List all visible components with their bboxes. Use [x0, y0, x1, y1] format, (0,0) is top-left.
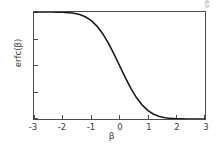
erfc-curve	[34, 12, 205, 119]
x-axis-title: β	[0, 131, 223, 141]
figure-id-label: 6969	[203, 0, 210, 8]
plot-area	[33, 11, 206, 120]
chart-figure: 2.0 1.5 1.0 0.5 0 -3 -2 -1 0 1 2 3 erfc(…	[0, 0, 223, 144]
y-axis-title: erfc(β)	[13, 31, 23, 75]
